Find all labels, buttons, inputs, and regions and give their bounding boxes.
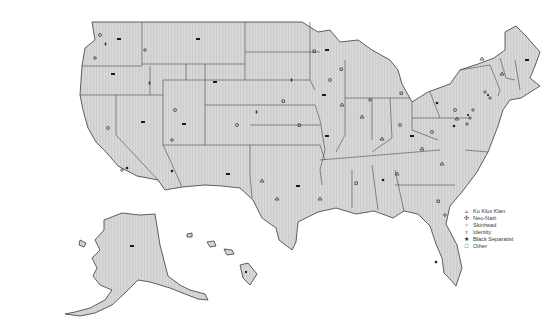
legend-label: Black Separatist: [473, 236, 513, 242]
triangle-icon: ▵: [463, 208, 470, 214]
legend-item-identity: ♆ Identity: [463, 229, 553, 235]
square-icon: □: [463, 243, 470, 249]
map-legend: ▵ Ku Klux Klan ✣ Neo-Nazi ○ Skinhead ♆ I…: [463, 208, 553, 249]
map-canvas: [0, 0, 559, 335]
legend-item-other: □ Other: [463, 242, 553, 248]
legend-label: Ku Klux Klan: [473, 208, 505, 214]
swastika-cross-icon: ✣: [463, 215, 470, 221]
legend-label: Identity: [473, 229, 491, 235]
us-map: [0, 0, 559, 335]
alaska-outline: [65, 213, 208, 316]
identity-icon: ♆: [463, 229, 470, 235]
legend-label: Skinhead: [473, 222, 496, 228]
legend-item-skinhead: ○ Skinhead: [463, 222, 553, 228]
legend-item-neo-nazi: ✣ Neo-Nazi: [463, 215, 553, 221]
circle-icon: ○: [463, 222, 470, 228]
legend-item-black-separatist: ★ Black Separatist: [463, 236, 553, 242]
legend-label: Neo-Nazi: [473, 215, 496, 221]
star-icon: ★: [463, 236, 470, 242]
legend-item-ku-klux-klan: ▵ Ku Klux Klan: [463, 208, 553, 214]
hawaii-islands: [187, 233, 257, 285]
alaska-island: [79, 240, 86, 247]
legend-label: Other: [473, 243, 487, 249]
